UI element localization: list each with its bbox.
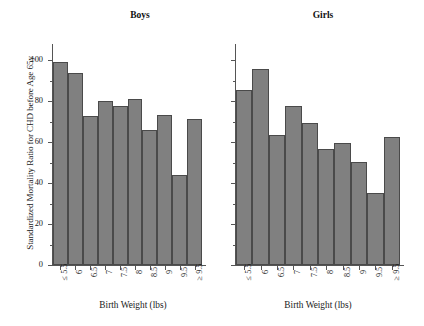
panel-girls: Girls ≤ 5.566.577.588.599.5≥ 9.5 Birth W…	[215, 0, 424, 326]
x-tick-label-girls-9: ≥ 9.5	[392, 264, 401, 281]
panel-boys: Boys 020406080100 ≤ 5.566.577.588.599.5≥…	[30, 0, 220, 326]
y-tick-minor-boys-90	[50, 81, 53, 82]
x-tick-slot: ≥ 9.5	[187, 266, 202, 271]
y-tick-label-60: 60	[35, 137, 43, 146]
x-tick-slot: 6.5	[269, 266, 285, 271]
x-tick-slot: 7.5	[113, 266, 128, 271]
y-tick-label-0: 0	[39, 260, 43, 269]
bar-slot	[351, 51, 367, 265]
x-tick-slot: 9	[157, 266, 172, 271]
x-tick-slot: 7	[285, 266, 301, 271]
x-tick-slot: 6	[68, 266, 83, 271]
y-tick-boys-60: 60	[48, 142, 52, 143]
y-tick-minor-girls-50	[233, 163, 236, 164]
bar-slot	[384, 51, 400, 265]
chart-figure: Standardized Mortality Ratio for CHD bef…	[0, 0, 424, 326]
plot-area-girls: ≤ 5.566.577.588.599.5≥ 9.5	[235, 51, 400, 266]
bar-girls-9	[384, 137, 400, 265]
bar-slot	[172, 51, 187, 265]
bar-slot	[98, 51, 113, 265]
y-tick-label-100: 100	[30, 55, 43, 64]
bar-slot	[157, 51, 172, 265]
y-tick-minor-girls-10	[233, 245, 236, 246]
x-tick-label-boys-9: ≥ 9.5	[195, 264, 204, 281]
bar-slot	[367, 51, 383, 265]
bar-slot	[302, 51, 318, 265]
bar-slot	[83, 51, 98, 265]
x-tick-slot: ≤ 5.5	[53, 266, 68, 271]
bar-girls-6	[334, 143, 350, 265]
y-tick-boys-80: 80	[48, 101, 52, 102]
bar-slot	[318, 51, 334, 265]
plot-area-boys: 020406080100 ≤ 5.566.577.588.599.5≥ 9.5	[52, 51, 202, 266]
bar-girls-5	[318, 149, 334, 265]
y-tick-minor-boys-70	[50, 122, 53, 123]
bar-boys-4	[113, 106, 128, 265]
y-tick-girls-0	[231, 265, 235, 266]
y-tick-girls-100	[231, 60, 235, 61]
x-axis-title-boys: Birth Weight (lbs)	[48, 300, 218, 310]
bar-boys-5	[128, 99, 143, 265]
bar-slot	[53, 51, 68, 265]
bar-slot	[252, 51, 268, 265]
x-tick-slot: 8	[318, 266, 334, 271]
bars-boys	[53, 51, 202, 265]
bar-boys-2	[83, 116, 98, 265]
bar-boys-9	[187, 119, 202, 265]
bar-slot	[269, 51, 285, 265]
y-tick-girls-20	[231, 224, 235, 225]
x-tick-slot: 8.5	[334, 266, 350, 271]
bar-girls-2	[269, 135, 285, 265]
panel-title-girls: Girls	[243, 10, 403, 20]
bar-boys-1	[68, 73, 83, 265]
y-tick-boys-40: 40	[48, 183, 52, 184]
bar-slot	[142, 51, 157, 265]
x-tick-slot: ≤ 5.5	[236, 266, 252, 271]
panel-title-boys: Boys	[60, 10, 220, 20]
y-tick-minor-boys-50	[50, 163, 53, 164]
y-tick-boys-20: 20	[48, 224, 52, 225]
y-tick-girls-60	[231, 142, 235, 143]
x-tick-slot: ≥ 9.5	[384, 266, 400, 271]
y-tick-minor-boys-10	[50, 245, 53, 246]
bars-girls	[236, 51, 400, 265]
x-tick-slot: 6.5	[83, 266, 98, 271]
y-tick-minor-girls-90	[233, 81, 236, 82]
x-tick-slot: 8.5	[142, 266, 157, 271]
bar-boys-6	[142, 130, 157, 265]
bar-girls-1	[252, 69, 268, 265]
bar-girls-0	[236, 90, 252, 265]
bar-boys-0	[53, 62, 68, 265]
y-tick-boys-100: 100	[48, 60, 52, 61]
bar-boys-7	[157, 115, 172, 266]
bar-slot	[236, 51, 252, 265]
y-tick-boys-0: 0	[48, 265, 52, 266]
bar-girls-7	[351, 162, 367, 265]
bar-slot	[128, 51, 143, 265]
y-tick-label-80: 80	[35, 96, 43, 105]
bar-slot	[187, 51, 202, 265]
y-tick-minor-girls-30	[233, 204, 236, 205]
bar-slot	[113, 51, 128, 265]
x-ticks-boys: ≤ 5.566.577.588.599.5≥ 9.5	[53, 266, 202, 271]
bar-slot	[68, 51, 83, 265]
bar-slot	[334, 51, 350, 265]
bar-girls-3	[285, 106, 301, 265]
x-tick-slot: 7.5	[302, 266, 318, 271]
x-tick-slot: 8	[128, 266, 143, 271]
x-tick-slot: 9.5	[367, 266, 383, 271]
x-axis-title-girls: Birth Weight (lbs)	[233, 300, 403, 310]
y-tick-girls-40	[231, 183, 235, 184]
bar-girls-4	[302, 123, 318, 265]
x-ticks-girls: ≤ 5.566.577.588.599.5≥ 9.5	[236, 266, 400, 271]
y-tick-minor-boys-30	[50, 204, 53, 205]
x-tick-slot: 9	[351, 266, 367, 271]
bar-boys-3	[98, 101, 113, 265]
x-tick-slot: 9.5	[172, 266, 187, 271]
x-tick-slot: 6	[252, 266, 268, 271]
y-tick-label-20: 20	[35, 219, 43, 228]
y-tick-minor-girls-70	[233, 122, 236, 123]
bar-girls-8	[367, 193, 383, 265]
y-tick-girls-80	[231, 101, 235, 102]
y-tick-label-40: 40	[35, 178, 43, 187]
